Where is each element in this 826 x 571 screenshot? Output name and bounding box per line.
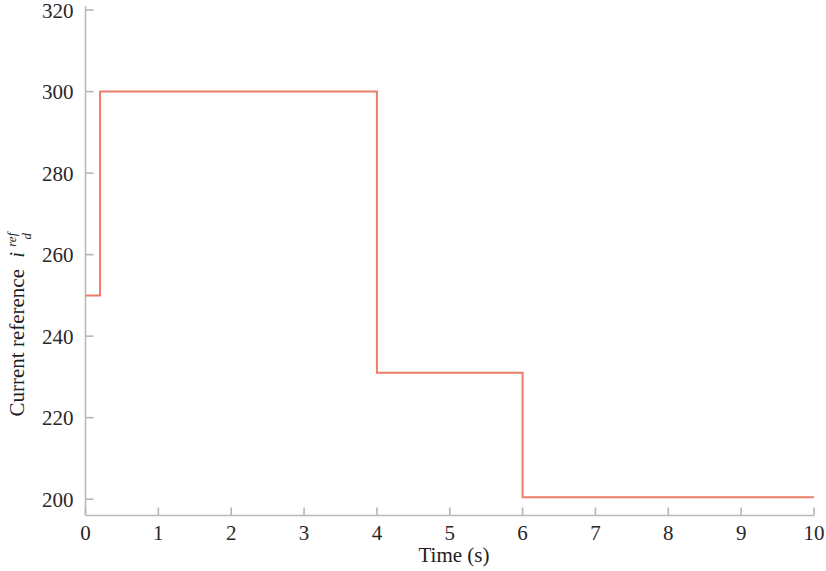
y-axis-tick-label: 280 [42,162,74,186]
x-axis-tick-label: 8 [663,521,674,545]
x-axis-tick-label: 6 [517,521,528,545]
y-axis-title-superscript: ref [4,230,19,246]
y-axis-tick-label: 260 [42,243,74,267]
y-axis-title-text: Current reference [5,269,29,416]
y-axis-title-symbol: i [5,252,29,258]
y-axis-tick-label: 240 [42,325,74,349]
y-axis-title: Current reference i ref d [0,227,34,416]
x-axis-tick-label: 0 [80,521,91,545]
y-axis-tick-label: 220 [42,406,74,430]
current-reference-step-chart: 200220240260280300320 012345678910 Time … [0,0,826,571]
x-axis-tick-label: 2 [226,521,237,545]
y-axis-title-group: Current reference i ref d [0,227,34,416]
x-axis-tick-label: 7 [590,521,601,545]
x-axis-tick-label: 10 [804,521,825,545]
chart-background [0,0,826,571]
x-axis-tick-label: 3 [299,521,310,545]
chart-figure: 200220240260280300320 012345678910 Time … [0,0,826,571]
x-axis-title: Time (s) [419,543,490,567]
x-axis-tick-label: 5 [445,521,456,545]
x-axis-tick-label: 9 [736,521,747,545]
x-axis-tick-label: 1 [153,521,164,545]
x-axis-tick-label: 4 [372,521,383,545]
y-axis-tick-label: 200 [42,488,74,512]
y-axis-tick-label: 300 [42,80,74,104]
y-axis-title-subscript: d [19,232,34,239]
y-axis-tick-label: 320 [42,0,74,23]
